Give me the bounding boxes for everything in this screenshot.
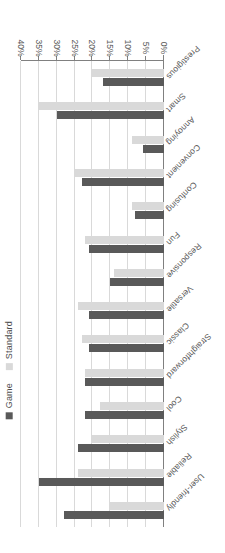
category-label: Cool xyxy=(164,394,184,414)
category-label: Responsive xyxy=(164,242,203,281)
bar-standard xyxy=(85,369,164,377)
category-label: Classic xyxy=(164,321,191,348)
category-label: Smart xyxy=(164,91,187,114)
chart-row xyxy=(21,261,164,294)
bar-standard xyxy=(132,136,164,144)
bar-game xyxy=(85,378,164,386)
chart-row xyxy=(21,361,164,394)
legend-label-standard: Standard xyxy=(4,321,14,359)
legend-swatch-game xyxy=(6,412,13,419)
bar-game xyxy=(135,211,164,219)
chart-row xyxy=(21,494,164,527)
bar-standard xyxy=(132,202,164,210)
bar-game xyxy=(143,145,164,153)
chart-row xyxy=(21,227,164,260)
legend-entry-game: Game xyxy=(4,383,14,419)
tick-label: 5% xyxy=(141,35,151,61)
bar-game xyxy=(110,278,164,286)
bar-standard xyxy=(82,335,164,343)
bar-game xyxy=(57,111,164,119)
chart-row xyxy=(21,94,164,127)
bar-standard xyxy=(100,402,164,410)
bar-standard xyxy=(93,69,165,77)
bar-standard xyxy=(75,169,164,177)
bar-standard xyxy=(78,469,164,477)
legend-entry-standard: Standard xyxy=(4,321,14,370)
tick-label: 0% xyxy=(159,35,169,61)
bar-standard xyxy=(93,435,165,443)
bar-standard xyxy=(110,502,164,510)
bar-standard xyxy=(114,269,164,277)
category-label: Versatile xyxy=(164,283,195,314)
category-label: Fun xyxy=(164,230,182,248)
bar-game xyxy=(39,478,164,486)
tick-label: 20% xyxy=(88,35,98,61)
chart-row xyxy=(21,128,164,161)
bar-game xyxy=(85,411,164,419)
bar-standard xyxy=(85,236,164,244)
category-label: Stylish xyxy=(164,422,189,447)
tick-label: 30% xyxy=(52,35,62,61)
chart-row xyxy=(21,327,164,360)
bar-game xyxy=(82,178,164,186)
chart-row xyxy=(21,194,164,227)
bar-game xyxy=(89,311,164,319)
chart-row xyxy=(21,427,164,460)
chart-row xyxy=(21,294,164,327)
tick-label: 40% xyxy=(16,35,26,61)
bar-standard xyxy=(39,102,164,110)
tick-label: 10% xyxy=(123,35,133,61)
bar-game xyxy=(89,344,164,352)
legend-label-game: Game xyxy=(4,383,14,408)
chart-row xyxy=(21,61,164,94)
bar-standard xyxy=(78,302,164,310)
chart-figure: Game Standard User-friendlyReliableStyli… xyxy=(0,0,225,553)
tick-label: 15% xyxy=(105,35,115,61)
plot-area: User-friendlyReliableStylishCoolStraight… xyxy=(21,61,164,527)
chart-row xyxy=(21,460,164,493)
tick-label: 35% xyxy=(34,35,44,61)
category-label: Reliable xyxy=(164,451,193,480)
bar-game xyxy=(64,511,164,519)
chart-row xyxy=(21,394,164,427)
chart-row xyxy=(21,161,164,194)
category-label: Prestigious xyxy=(164,44,202,82)
bar-game xyxy=(78,444,164,452)
category-label: Confusing xyxy=(164,180,199,215)
bar-game xyxy=(103,78,164,86)
bar-game xyxy=(89,245,164,253)
category-label: Convenient xyxy=(164,143,202,181)
category-label: Annoying xyxy=(164,115,197,148)
tick-label: 25% xyxy=(70,35,80,61)
legend-swatch-standard xyxy=(6,363,13,370)
